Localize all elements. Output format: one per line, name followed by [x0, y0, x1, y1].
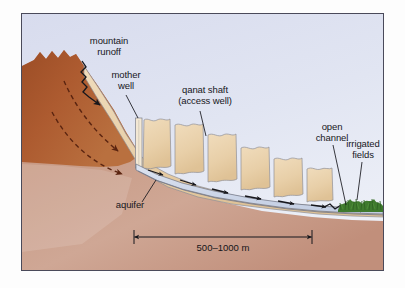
- label-qanat-shaft: qanat shaft(access well): [162, 84, 248, 106]
- shaft-block-3: [208, 134, 237, 182]
- label-irrigated-fields-line1: irrigated: [346, 138, 379, 149]
- scale-bar-label: 500–1000 m: [163, 242, 283, 253]
- label-open-channel-line1: open: [322, 121, 343, 132]
- label-mother-well-line1: mother: [112, 69, 141, 80]
- label-qanat-shaft-line2: (access well): [178, 95, 232, 106]
- label-mountain-runoff-line1: mountain: [90, 35, 128, 46]
- diagram-frame: mountainrunoff motherwell qanat shaft(ac…: [21, 13, 384, 271]
- label-mountain-runoff-line2: runoff: [97, 46, 121, 57]
- shaft-block-6: [307, 168, 333, 202]
- mother-well-shaft: [136, 118, 143, 168]
- figure-page: mountainrunoff motherwell qanat shaft(ac…: [0, 0, 405, 288]
- shaft-block-5: [274, 158, 303, 197]
- label-mother-well: motherwell: [97, 69, 155, 91]
- label-qanat-shaft-line1: qanat shaft: [182, 84, 228, 95]
- label-mountain-runoff: mountainrunoff: [74, 35, 144, 57]
- scale-bar-value: 500–1000 m: [197, 242, 250, 253]
- label-aquifer-text: aquifer: [116, 199, 144, 210]
- label-aquifer: aquifer: [104, 199, 156, 210]
- label-irrigated-fields: irrigatedfields: [336, 138, 384, 160]
- shaft-block-1: [143, 119, 171, 169]
- shaft-block-2: [175, 124, 204, 174]
- label-mother-well-line2: well: [118, 80, 134, 91]
- shaft-block-4: [241, 147, 270, 190]
- label-irrigated-fields-line2: fields: [352, 149, 374, 160]
